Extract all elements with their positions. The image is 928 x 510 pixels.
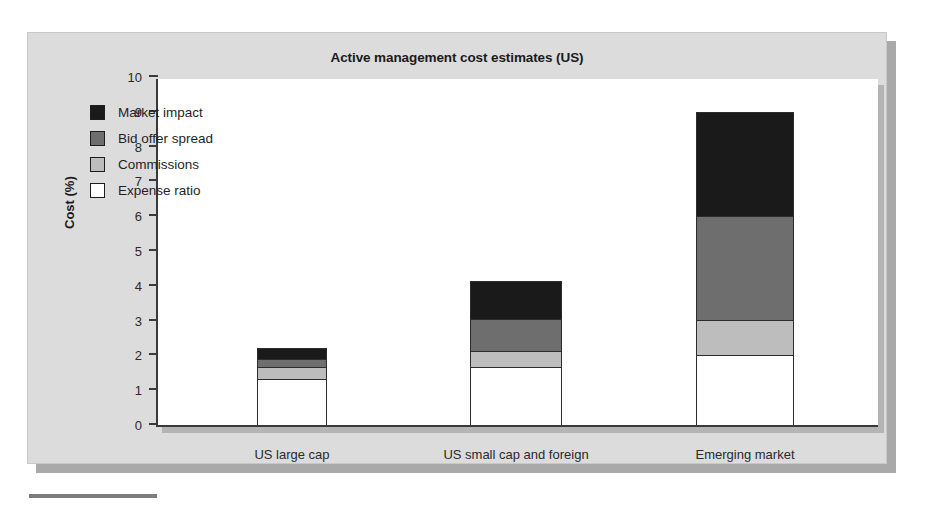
legend-item-label: Bid offer spread <box>118 131 213 146</box>
bar-stack <box>257 348 327 425</box>
legend-item[interactable]: Market impact <box>90 99 213 125</box>
y-tick-3: 3 <box>149 319 158 321</box>
legend-item-label: Commissions <box>118 157 199 172</box>
chart-panel: Active management cost estimates (US) Co… <box>27 32 887 464</box>
y-tick-label: 6 <box>135 209 142 224</box>
bar-segment <box>697 113 793 217</box>
y-tick-label: 0 <box>135 418 142 433</box>
plot-area: 012345678910 US large capUS small cap an… <box>156 79 878 427</box>
legend-item[interactable]: Bid offer spread <box>90 125 213 151</box>
x-tick-label: US large cap <box>254 447 329 462</box>
y-tick-0: 0 <box>149 423 158 425</box>
bar-stack <box>696 112 794 425</box>
bar-segment <box>258 368 326 380</box>
y-tick-6: 6 <box>149 214 158 216</box>
legend-swatch-icon <box>90 157 105 172</box>
y-tick-label: 1 <box>135 383 142 398</box>
y-tick-10: 10 <box>149 75 158 77</box>
figure-root: Active management cost estimates (US) Co… <box>0 0 928 510</box>
legend-item-label: Market impact <box>118 105 203 120</box>
bar-segment <box>471 368 561 425</box>
bar-segment <box>258 380 326 425</box>
bar-segment <box>471 320 561 353</box>
x-tick-label: US small cap and foreign <box>443 447 588 462</box>
bar-stack <box>470 281 562 425</box>
y-axis-label: Cost (%) <box>62 176 77 229</box>
y-tick-label: 4 <box>135 278 142 293</box>
y-tick-5: 5 <box>149 249 158 251</box>
legend-item[interactable]: Commissions <box>90 151 213 177</box>
legend-item[interactable]: Expense ratio <box>90 177 213 203</box>
legend-swatch-icon <box>90 183 105 198</box>
legend-swatch-icon <box>90 131 105 146</box>
bar-segment <box>258 360 326 369</box>
bar-segment <box>471 352 561 368</box>
y-tick-label: 5 <box>135 244 142 259</box>
bar-segment <box>697 321 793 356</box>
y-tick-label: 10 <box>128 70 142 85</box>
bar-segment <box>697 356 793 425</box>
chart-legend: Market impactBid offer spreadCommissions… <box>90 99 213 203</box>
x-tick-label: Emerging market <box>696 447 795 462</box>
y-tick-2: 2 <box>149 353 158 355</box>
y-tick-1: 1 <box>149 388 158 390</box>
bar-segment <box>697 217 793 321</box>
y-tick-label: 3 <box>135 313 142 328</box>
caption-rule <box>29 494 157 498</box>
chart-title: Active management cost estimates (US) <box>28 50 886 65</box>
legend-swatch-icon <box>90 105 105 120</box>
bar-segment <box>258 349 326 360</box>
y-tick-4: 4 <box>149 284 158 286</box>
plot-area-wrapper: 012345678910 US large capUS small cap an… <box>156 79 878 427</box>
bar-segment <box>471 282 561 320</box>
y-tick-label: 2 <box>135 348 142 363</box>
legend-item-label: Expense ratio <box>118 183 201 198</box>
